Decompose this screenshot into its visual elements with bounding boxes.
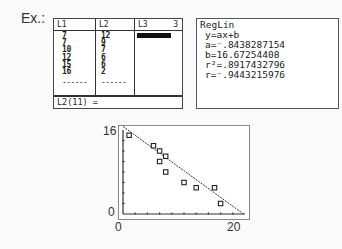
data-point [151,144,155,148]
y-min-label: 0 [108,205,115,219]
data-point [194,186,198,190]
column-divider [134,19,135,95]
y-max-label: 16 [103,124,116,138]
data-point [127,133,131,137]
list-editor-screen: L1 L2 L3 3 7 7 10 12 15 16 12 9 7 6 6 2 … [53,18,183,109]
regression-results-screen: RegLin y=ax+b a=⁻.8438287154 b=16.672544… [196,18,339,109]
data-point [157,149,161,153]
l2-end-dashes: ------ [101,78,126,87]
l2-cell[interactable]: 2 [101,68,110,75]
data-points [127,133,223,206]
list-header: L1 L2 L3 3 [54,19,182,31]
scatter-plot [118,125,250,220]
l2-values: 12 9 7 6 6 2 [101,32,110,75]
data-point [164,154,168,158]
column-divider [95,19,96,95]
data-point [212,186,216,190]
data-point [182,180,186,184]
header-l2[interactable]: L2 [99,19,109,30]
l1-end-dashes: ------ [62,78,87,87]
data-point [164,170,168,174]
plot-axes [123,130,246,215]
correlation-value: r=⁻.9443215976 [205,70,285,80]
x-min-label: 0 [115,220,122,234]
plot-canvas [119,126,249,219]
x-max-label: 20 [227,220,240,234]
edit-line[interactable]: L2(11) = [57,97,98,108]
example-label: Ex.: [21,10,45,26]
column-number: 3 [173,19,178,30]
header-l3[interactable]: L3 [138,19,148,30]
data-point [157,159,161,163]
header-l1[interactable]: L1 [57,19,67,30]
l1-values: 7 7 10 12 15 16 [62,32,71,75]
l1-cell[interactable]: 16 [62,68,71,75]
regression-line [123,126,244,214]
data-point [218,201,222,205]
l3-cursor[interactable] [137,33,171,38]
